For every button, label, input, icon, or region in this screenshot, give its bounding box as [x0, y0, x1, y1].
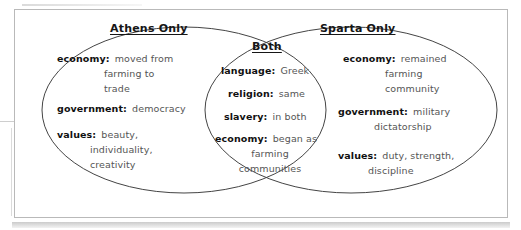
sparta-values-line-2: discipline — [368, 165, 414, 176]
sparta-government-line-2: dictatorship — [374, 121, 432, 132]
both-economy-line-3: communities — [239, 163, 301, 174]
sparta-entry-values: values: duty, strength, discipline — [338, 147, 454, 177]
sparta-values-row-2: discipline — [338, 162, 454, 177]
athens-economy-row-2: farming to — [57, 65, 173, 80]
both-economy-row-1: economy: began as — [215, 130, 325, 145]
athens-government-line-1: democracy — [132, 103, 186, 114]
athens-values-line-2: individuality, — [90, 144, 153, 155]
athens-government-term: government: — [57, 103, 127, 114]
athens-values-term: values: — [57, 129, 96, 140]
sparta-economy-row-2: farming — [343, 65, 447, 80]
sparta-economy-line-1: remained — [401, 53, 447, 64]
both-entry-economy: economy: began as farming communities — [215, 130, 325, 175]
both-language-line-1: Greek — [280, 65, 309, 76]
sparta-entry-economy: economy: remained farming community — [343, 50, 447, 95]
athens-values-line-1: beauty, — [101, 129, 138, 140]
athens-values-row-3: creativity — [57, 156, 153, 171]
sparta-economy-line-2: farming — [385, 68, 423, 79]
sparta-values-row-1: values: duty, strength, — [338, 147, 454, 162]
athens-entry-government: government: democracy — [57, 100, 186, 115]
heading-sparta-only: Sparta Only — [320, 22, 395, 35]
athens-economy-line-2: farming to — [104, 68, 154, 79]
athens-values-line-3: creativity — [90, 159, 136, 170]
sparta-government-row-1: government: military — [338, 103, 450, 118]
athens-economy-line-1: moved from — [115, 53, 174, 64]
both-slavery-row-1: slavery: in both — [224, 108, 307, 123]
athens-entry-values: values: beauty, individuality, creativit… — [57, 126, 153, 171]
sparta-economy-row-3: community — [343, 80, 447, 95]
heading-both: Both — [252, 40, 282, 53]
both-slavery-line-1: in both — [273, 111, 307, 122]
sparta-values-line-1: duty, strength, — [382, 150, 454, 161]
both-economy-line-1: began as — [273, 133, 317, 144]
both-language-term: language: — [221, 65, 275, 76]
both-entry-religion: religion: same — [228, 85, 305, 100]
athens-economy-line-3: trade — [104, 83, 130, 94]
both-religion-line-1: same — [279, 88, 305, 99]
both-language-row-1: language: Greek — [221, 62, 309, 77]
both-economy-row-2: farming — [215, 145, 325, 160]
athens-values-row-1: values: beauty, — [57, 126, 153, 141]
both-religion-term: religion: — [228, 88, 274, 99]
athens-values-row-2: individuality, — [57, 141, 153, 156]
sparta-values-term: values: — [338, 150, 377, 161]
athens-economy-row-3: trade — [57, 80, 173, 95]
sparta-government-line-1: military — [413, 106, 450, 117]
both-entry-slavery: slavery: in both — [224, 108, 307, 123]
heading-athens-only: Athens Only — [110, 22, 188, 35]
both-economy-row-3: communities — [215, 160, 325, 175]
sparta-government-term: government: — [338, 106, 408, 117]
athens-entry-economy: economy: moved from farming to trade — [57, 50, 173, 95]
sparta-entry-government: government: military dictatorship — [338, 103, 450, 133]
both-economy-line-2: farming — [251, 148, 289, 159]
venn-diagram-page: Athens Only economy: moved from farming … — [0, 0, 521, 230]
both-slavery-term: slavery: — [224, 111, 267, 122]
athens-economy-term: economy: — [57, 53, 110, 64]
both-economy-term: economy: — [215, 133, 268, 144]
sparta-economy-term: economy: — [343, 53, 396, 64]
athens-government-row-1: government: democracy — [57, 100, 186, 115]
both-religion-row-1: religion: same — [228, 85, 305, 100]
sparta-economy-row-1: economy: remained — [343, 50, 447, 65]
athens-economy-row-1: economy: moved from — [57, 50, 173, 65]
both-entry-language: language: Greek — [221, 62, 309, 77]
sparta-economy-line-3: community — [385, 83, 439, 94]
sparta-government-row-2: dictatorship — [338, 118, 450, 133]
